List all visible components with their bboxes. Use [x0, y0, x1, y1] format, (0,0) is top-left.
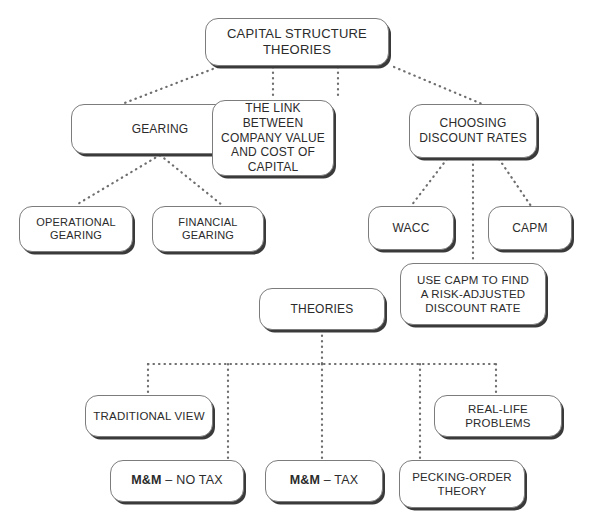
node-wacc[interactable]: WACC	[368, 206, 454, 250]
node-capm[interactable]: CAPM	[488, 206, 572, 250]
mm-acronym: M&M	[131, 473, 161, 487]
node-mm-tax[interactable]: M&M – TAX	[265, 460, 383, 502]
node-pecking-order-theory[interactable]: PECKING-ORDER THEORY	[399, 460, 525, 508]
node-theories[interactable]: THEORIES	[259, 288, 385, 330]
node-link-between-company-value-and-cost-of-capital[interactable]: THE LINK BETWEEN COMPANY VALUE AND COST …	[212, 100, 334, 176]
node-label: FINANCIAL GEARING	[172, 216, 243, 243]
node-label: THE LINK BETWEEN COMPANY VALUE AND COST …	[213, 101, 333, 174]
node-label: M&M – NO TAX	[125, 473, 229, 488]
node-real-life-problems[interactable]: REAL-LIFE PROBLEMS	[434, 395, 562, 437]
mm-acronym: M&M	[290, 473, 320, 487]
connector-layer	[0, 0, 591, 524]
node-financial-gearing[interactable]: FINANCIAL GEARING	[152, 206, 264, 252]
node-capital-structure-theories[interactable]: CAPITAL STRUCTURE THEORIES	[205, 18, 389, 66]
node-label: OPERATIONAL GEARING	[30, 216, 122, 243]
node-mm-no-tax[interactable]: M&M – NO TAX	[110, 460, 244, 502]
node-label: CAPITAL STRUCTURE THEORIES	[206, 26, 388, 58]
node-traditional-view[interactable]: TRADITIONAL VIEW	[85, 395, 213, 437]
node-use-capm-to-find-risk-adjusted-discount-rate[interactable]: USE CAPM TO FIND A RISK-ADJUSTED DISCOUN…	[400, 263, 546, 325]
connector-root-to-choosing	[394, 67, 482, 104]
node-label: USE CAPM TO FIND A RISK-ADJUSTED DISCOUN…	[411, 273, 535, 315]
node-label: CAPM	[506, 221, 553, 236]
node-label: CHOOSING DISCOUNT RATES	[413, 116, 533, 145]
mm-suffix: – TAX	[320, 473, 358, 487]
connector-gearing-to-operational	[76, 155, 160, 205]
node-label: TRADITIONAL VIEW	[87, 409, 210, 423]
node-label: M&M – TAX	[284, 473, 365, 488]
node-label: THEORIES	[285, 302, 360, 317]
node-label: PECKING-ORDER THEORY	[406, 470, 518, 498]
node-choosing-discount-rates[interactable]: CHOOSING DISCOUNT RATES	[409, 104, 537, 158]
connector-choosing-to-capm	[499, 159, 531, 206]
mm-suffix: – NO TAX	[162, 473, 223, 487]
node-label: REAL-LIFE PROBLEMS	[435, 402, 561, 430]
connector-root-to-gearing	[122, 67, 218, 104]
node-label: GEARING	[126, 122, 195, 137]
node-label: WACC	[386, 221, 435, 236]
capital-structure-diagram: CAPITAL STRUCTURE THEORIES GEARING THE L…	[0, 0, 591, 524]
connector-choosing-to-wacc	[411, 159, 447, 206]
node-operational-gearing[interactable]: OPERATIONAL GEARING	[19, 206, 133, 252]
